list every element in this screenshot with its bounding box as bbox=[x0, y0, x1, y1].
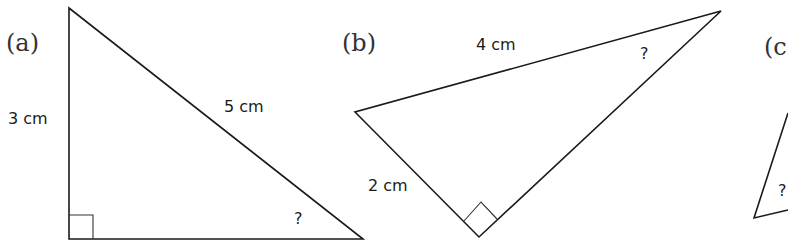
triangles-figure: (a) 3 cm 5 cm ? (b) 4 cm 2 cm ? (c ? bbox=[0, 0, 788, 247]
side-label-b-left: 2 cm bbox=[368, 176, 408, 195]
unknown-angle-b: ? bbox=[640, 44, 649, 63]
side-label-a-hypotenuse: 5 cm bbox=[224, 97, 264, 116]
part-label-c: (c bbox=[764, 33, 787, 61]
side-label-a-vertical: 3 cm bbox=[8, 109, 48, 128]
triangle-b: (b) 4 cm 2 cm ? bbox=[342, 11, 721, 237]
right-angle-marker-b bbox=[464, 202, 497, 221]
unknown-angle-a: ? bbox=[294, 209, 303, 228]
part-label-b: (b) bbox=[342, 29, 376, 57]
right-angle-marker-a bbox=[69, 215, 93, 239]
unknown-angle-c: ? bbox=[778, 181, 787, 200]
triangle-c-shape bbox=[754, 113, 788, 218]
side-label-b-top: 4 cm bbox=[476, 35, 516, 54]
triangle-a: (a) 3 cm 5 cm ? bbox=[6, 8, 363, 239]
part-label-a: (a) bbox=[6, 29, 39, 57]
triangle-c: (c ? bbox=[754, 33, 788, 218]
triangle-b-shape bbox=[355, 11, 721, 237]
triangle-a-shape bbox=[69, 8, 363, 239]
